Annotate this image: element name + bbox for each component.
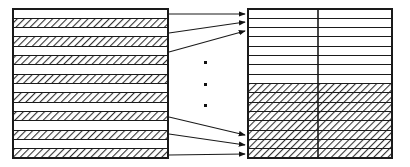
right-block-row-7 (248, 74, 392, 83)
left-block-row-10 (13, 102, 168, 111)
right-block-row-10 (248, 102, 392, 111)
arrow-bottom-3 (169, 154, 245, 155)
left-block-row-2 (13, 28, 168, 37)
left-block-row-6 (13, 65, 168, 74)
right-block-row-3 (248, 37, 392, 46)
diagram-canvas (0, 0, 410, 167)
left-block-row-14 (13, 139, 168, 148)
arrow-bottom-1 (169, 117, 245, 135)
arrow-bottom-2 (169, 134, 245, 145)
left-block-row-4 (13, 46, 168, 55)
right-block-row-0 (248, 9, 392, 18)
right-block-row-4 (248, 46, 392, 55)
left-block-row-7 (13, 74, 168, 83)
ellipsis-dot-1 (204, 61, 207, 64)
arrow-top-3 (169, 31, 245, 52)
right-block-row-11 (248, 111, 392, 120)
left-block-row-8 (13, 84, 168, 93)
left-block-row-0 (13, 9, 168, 18)
right-block-row-9 (248, 93, 392, 102)
right-block-row-13 (248, 130, 392, 139)
left-block-row-11 (13, 111, 168, 120)
right-block-row-1 (248, 18, 392, 27)
vertical-ellipsis (204, 61, 207, 107)
left-block-row-12 (13, 121, 168, 130)
left-block (13, 9, 168, 158)
ellipsis-dot-3 (204, 104, 207, 107)
right-block-row-12 (248, 121, 392, 130)
right-block-row-14 (248, 139, 392, 148)
mapping-arrows (169, 14, 245, 155)
arrow-top-2 (169, 22, 245, 33)
right-block-row-6 (248, 65, 392, 74)
right-block-row-2 (248, 28, 392, 37)
left-block-row-3 (13, 37, 168, 46)
left-block-row-15 (13, 149, 168, 158)
left-block-row-13 (13, 130, 168, 139)
ellipsis-dot-2 (204, 83, 207, 86)
left-block-row-5 (13, 56, 168, 65)
left-block-row-1 (13, 18, 168, 27)
diagram-svg (0, 0, 410, 167)
right-block-row-8 (248, 84, 392, 93)
right-block (248, 9, 392, 158)
right-block-row-15 (248, 149, 392, 158)
right-block-row-5 (248, 56, 392, 65)
left-block-row-9 (13, 93, 168, 102)
